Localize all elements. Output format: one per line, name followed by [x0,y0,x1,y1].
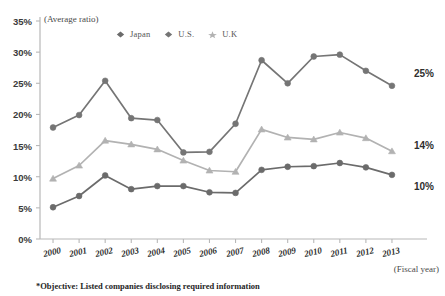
x-axis-title: (Fiscal year) [394,264,439,274]
chart-footnote: *Objective: Listed companies disclosing … [36,281,260,291]
x-tick-2009: 2009 [277,245,297,259]
star-marker [207,30,218,39]
x-tick-2006: 2006 [199,245,219,259]
end-label-us: 25% [414,68,434,79]
x-tick-2003: 2003 [120,245,140,259]
legend-label: Japan [130,29,150,39]
end-label-japan: 10% [414,181,434,192]
x-tick-2011: 2011 [329,245,348,259]
x-tick-2002: 2002 [94,245,114,259]
x-tick-2012: 2012 [355,245,375,259]
x-tick-2008: 2008 [251,245,271,259]
x-tick-2013: 2013 [381,245,401,259]
legend-item-us[interactable]: U.S. [163,29,194,39]
x-tick-2001: 2001 [68,245,88,259]
x-tick-2005: 2005 [172,245,192,259]
legend-item-uk[interactable]: U.K [207,29,237,39]
x-tick-2010: 2010 [303,245,323,259]
x-tick-2000: 2000 [42,245,62,259]
legend-item-japan[interactable]: Japan [115,29,150,39]
x-tick-2007: 2007 [225,245,245,259]
end-label-uk: 14% [414,140,434,151]
chart-legend: JapanU.S.U.K [115,29,237,39]
diamond-marker [163,30,174,39]
line-chart: (Average ratio) 0%5%10%15%20%25%30%35% 2… [0,0,445,296]
legend-label: U.K [222,29,237,39]
x-tick-2004: 2004 [146,245,166,259]
diamond-marker [115,30,126,39]
legend-label: U.S. [178,29,194,39]
x-axis-tick-labels: 2000200120022003200420052006200720082009… [0,0,445,296]
